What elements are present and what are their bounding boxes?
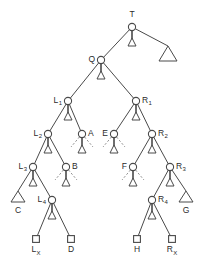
label-text: C (15, 205, 21, 215)
label-subscript: 2 (39, 133, 43, 139)
label-text: B (72, 161, 78, 171)
tree-edge-Q-L1 (68, 60, 101, 101)
label-text: T (129, 9, 134, 19)
label-subscript: 1 (149, 100, 153, 106)
node-label-R3: R3 (176, 161, 187, 173)
label-text: R (158, 194, 164, 204)
label-text: R (142, 95, 148, 105)
label-text: E (102, 128, 108, 138)
label-subscript: 3 (183, 166, 187, 172)
subtree-triangle-C (11, 191, 25, 202)
stub-triangle-icon (129, 178, 137, 186)
label-subscript: 3 (24, 166, 28, 172)
stub-triangle-icon (97, 71, 105, 79)
tree-node-L1[interactable] (64, 97, 71, 104)
node-label-L2: L2 (34, 128, 43, 140)
node-label-Q: Q (88, 54, 95, 64)
stub-triangle-icon (78, 145, 86, 153)
stub-triangle-icon (148, 145, 156, 153)
tree-node-A[interactable] (78, 130, 85, 137)
subtree-triangle-G (179, 191, 193, 202)
subtree-triangle-bigT (159, 46, 177, 61)
tree-node-F[interactable] (129, 163, 136, 170)
leaf-node-H[interactable] (134, 236, 141, 243)
node-label-LX: LX (31, 244, 40, 256)
tree-edge-T-Q (101, 27, 132, 60)
subtree-stub-layer (29, 27, 174, 219)
tree-edge-T-bigT (132, 27, 168, 46)
stub-triangle-icon (62, 178, 70, 186)
leaf-node-D[interactable] (68, 236, 75, 243)
tree-canvas: TQL1R1L2AER2L3BFR3L4R4LXDHRXCG (0, 0, 204, 270)
node-label-H: H (134, 244, 140, 254)
node-label-T: T (129, 9, 134, 19)
label-subscript: X (173, 250, 177, 256)
tree-node-R2[interactable] (148, 130, 155, 137)
label-subscript: 4 (165, 199, 169, 205)
tree-node-E[interactable] (110, 130, 117, 137)
node-label-R1: R1 (142, 95, 153, 107)
label-subscript: 1 (59, 100, 63, 106)
leaf-node-LX[interactable] (33, 236, 40, 243)
tree-node-Q[interactable] (97, 56, 104, 63)
node-label-C: C (15, 205, 21, 215)
tree-node-R3[interactable] (166, 163, 173, 170)
stub-triangle-icon (110, 145, 118, 153)
stub-triangle-icon (128, 38, 136, 46)
node-label-F: F (122, 161, 127, 171)
tree-edge-Q-R1 (101, 60, 136, 101)
tree-node-B[interactable] (62, 163, 69, 170)
node-label-L3: L3 (19, 161, 28, 173)
label-subscript: 2 (165, 133, 169, 139)
node-label-D: D (68, 244, 74, 254)
tree-node-L2[interactable] (44, 130, 51, 137)
stub-triangle-icon (166, 178, 174, 186)
label-text: G (183, 205, 190, 215)
tree-node-L4[interactable] (48, 196, 55, 203)
label-subscript: X (37, 250, 41, 256)
tree-node-T[interactable] (128, 23, 135, 30)
label-text: H (134, 244, 140, 254)
label-text: F (122, 161, 127, 171)
label-text: Q (88, 54, 95, 64)
node-label-L1: L1 (54, 95, 63, 107)
stub-triangle-icon (64, 112, 72, 120)
tree-node-R1[interactable] (132, 97, 139, 104)
node-label-L4: L4 (38, 194, 47, 206)
binary-tree-diagram: TQL1R1L2AER2L3BFR3L4R4LXDHRXCG (0, 0, 204, 270)
node-label-A: A (88, 128, 94, 138)
node-label-E: E (102, 128, 108, 138)
leaf-node-RX[interactable] (169, 236, 176, 243)
tree-node-R4[interactable] (148, 196, 155, 203)
stub-triangle-icon (48, 211, 56, 219)
node-label-B: B (72, 161, 78, 171)
stub-triangle-icon (44, 145, 52, 153)
node-label-R2: R2 (158, 128, 169, 140)
label-text: R (167, 244, 173, 254)
stub-triangle-icon (148, 211, 156, 219)
node-label-RX: RX (167, 244, 178, 256)
stub-triangle-icon (29, 178, 37, 186)
label-text: D (68, 244, 74, 254)
label-text: R (176, 161, 182, 171)
label-text: R (158, 128, 164, 138)
label-text: A (88, 128, 94, 138)
stub-triangle-icon (132, 112, 140, 120)
label-layer: TQL1R1L2AER2L3BFR3L4R4LXDHRXCG (15, 9, 189, 256)
tree-node-L3[interactable] (29, 163, 36, 170)
label-subscript: 4 (43, 199, 47, 205)
node-label-G: G (183, 205, 190, 215)
node-label-R4: R4 (158, 194, 169, 206)
